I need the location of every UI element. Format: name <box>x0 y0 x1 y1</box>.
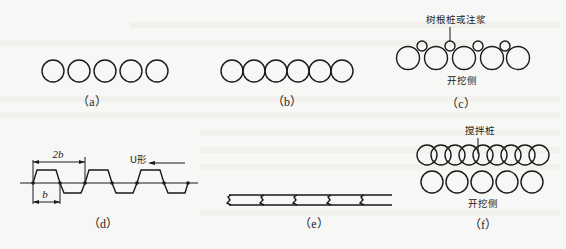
caption-e: （e） <box>299 217 328 231</box>
dimension-b: b <box>42 188 48 200</box>
caption-a: （a） <box>77 95 106 109</box>
dimension-2b: 2b <box>53 148 65 160</box>
label-excavation-side-f: 开挖侧 <box>468 198 498 209</box>
caption-b: （b） <box>272 95 302 109</box>
caption-d: （d） <box>88 217 118 231</box>
label-root-pile-or-grouting: 树根桩或注浆 <box>426 14 486 25</box>
label-u-shape: U形 <box>130 154 147 165</box>
caption-f: （f） <box>469 218 497 232</box>
label-excavation-side-c: 开挖侧 <box>447 75 477 86</box>
caption-c: （c） <box>446 97 475 111</box>
label-mixing-pile: 搅拌桩 <box>465 125 495 136</box>
panel-d: 2b b U形 （d） <box>20 148 198 231</box>
retaining-wall-diagram: （a） （b） 树根桩或注浆 开挖侧 （c） 2b <box>0 0 566 249</box>
